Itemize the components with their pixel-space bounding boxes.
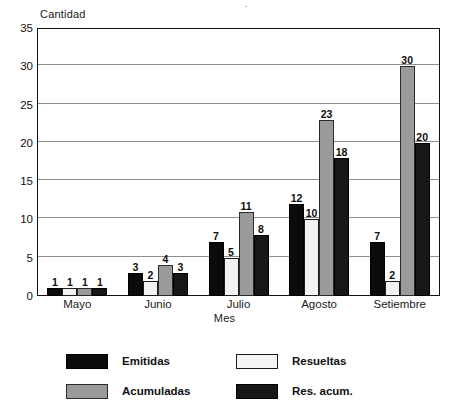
legend-item-acumuladas[interactable]: Acumuladas: [66, 384, 236, 399]
y-tick-label-25: 25: [3, 99, 33, 111]
y-axis-ticks: 05101520253035: [0, 28, 33, 296]
x-label-agosto: Agosto: [301, 298, 337, 310]
legend-item-res-acum[interactable]: Res. acum.: [236, 384, 396, 399]
legend-swatch-icon: [66, 354, 108, 369]
gridline-20: [38, 141, 439, 142]
gridline-5: [38, 256, 439, 257]
y-tick-label-5: 5: [3, 252, 33, 264]
legend-label: Emitidas: [122, 355, 170, 367]
legend-label: Resueltas: [292, 355, 346, 367]
legend-label: Acumuladas: [122, 385, 190, 397]
x-label-julio: Julio: [227, 298, 251, 310]
legend-item-resueltas[interactable]: Resueltas: [236, 354, 396, 369]
y-tick-label-15: 15: [3, 175, 33, 187]
legend-swatch-icon: [66, 384, 108, 399]
y-tick-label-10: 10: [3, 213, 33, 225]
x-label-junio: Junio: [144, 298, 172, 310]
y-tick-label-20: 20: [3, 137, 33, 149]
y-axis-title: Cantidad: [40, 8, 86, 20]
gridline-30: [38, 64, 439, 65]
gridline-25: [38, 103, 439, 104]
gridline-15: [38, 179, 439, 180]
legend-swatch-icon: [236, 384, 278, 399]
y-tick-label-30: 30: [3, 60, 33, 72]
y-tick-label-35: 35: [3, 22, 33, 34]
x-axis-title: Mes: [0, 312, 449, 324]
plot-area: [37, 28, 440, 296]
chart-legend: EmitidasResueltasAcumuladasRes. acum.: [66, 346, 396, 400]
x-label-setiembre: Setiembre: [373, 298, 425, 310]
legend-swatch-icon: [236, 354, 278, 369]
x-label-mayo: Mayo: [63, 298, 91, 310]
gridline-10: [38, 217, 439, 218]
chart-title-cropped: mensual: [0, 0, 449, 7]
y-tick-label-0: 0: [3, 290, 33, 302]
chart-title-text: mensual: [201, 5, 248, 7]
legend-item-emitidas[interactable]: Emitidas: [66, 354, 236, 369]
legend-label: Res. acum.: [292, 385, 353, 397]
